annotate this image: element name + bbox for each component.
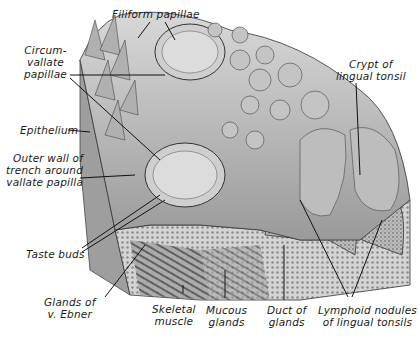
- label-lymphoid-nodules: Lymphoid nodules of lingual tonsils: [318, 304, 417, 328]
- label-crypt-of-lingual-tonsil: Crypt of lingual tonsil: [336, 58, 406, 82]
- label-duct-of-glands: Duct of glands: [267, 304, 307, 328]
- label-circumvallate-papillae: Circum- vallate papillae: [24, 44, 67, 80]
- tongue-diagram: Filiform papillae Circum- vallate papill…: [0, 0, 419, 342]
- label-outer-wall-of-trench: Outer wall of trench around vallate papi…: [6, 152, 83, 188]
- label-filiform-papillae: Filiform papillae: [112, 8, 200, 20]
- label-glands-of-v-ebner: Glands of v. Ebner: [44, 296, 96, 320]
- label-skeletal-muscle: Skeletal muscle: [152, 303, 196, 327]
- label-mucous-glands: Mucous glands: [206, 304, 247, 328]
- label-taste-buds: Taste buds: [26, 248, 85, 260]
- label-epithelium: Epithelium: [20, 124, 78, 136]
